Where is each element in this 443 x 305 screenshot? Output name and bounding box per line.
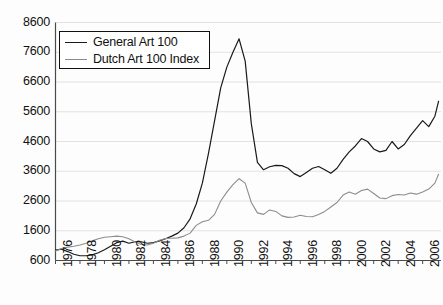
x-tick-label: 2006 xyxy=(428,239,442,266)
x-tick-label: 2004 xyxy=(404,239,418,266)
x-tick-label: 1998 xyxy=(330,239,344,266)
legend-item-dutch-art-100-index: Dutch Art 100 Index xyxy=(65,51,204,68)
x-tick-label: 1976 xyxy=(61,239,75,266)
x-tick-label: 1982 xyxy=(134,239,148,266)
chart-container: 86007600660056004600360026001600600 1976… xyxy=(0,0,443,305)
x-tick-label: 1980 xyxy=(110,239,124,266)
x-tick-label: 1978 xyxy=(85,239,99,266)
legend-swatch-general-art-100 xyxy=(65,42,87,43)
x-tick-label: 1996 xyxy=(306,239,320,266)
legend-item-general-art-100: General Art 100 xyxy=(65,34,204,51)
chart-legend: General Art 100 Dutch Art 100 Index xyxy=(59,31,210,69)
x-tick-label: 1990 xyxy=(232,239,246,266)
x-tick-label: 2000 xyxy=(355,239,369,266)
x-tick-label: 1984 xyxy=(159,239,173,266)
x-tick-label: 1988 xyxy=(208,239,222,266)
x-tick-label: 1994 xyxy=(281,239,295,266)
x-tick-label: 2002 xyxy=(379,239,393,266)
x-tick-label: 1986 xyxy=(183,239,197,266)
legend-swatch-dutch-art-100-index xyxy=(65,59,87,60)
x-tick-label: 1992 xyxy=(257,239,271,266)
legend-label-dutch-art-100-index: Dutch Art 100 Index xyxy=(93,53,199,66)
legend-label-general-art-100: General Art 100 xyxy=(93,36,178,49)
